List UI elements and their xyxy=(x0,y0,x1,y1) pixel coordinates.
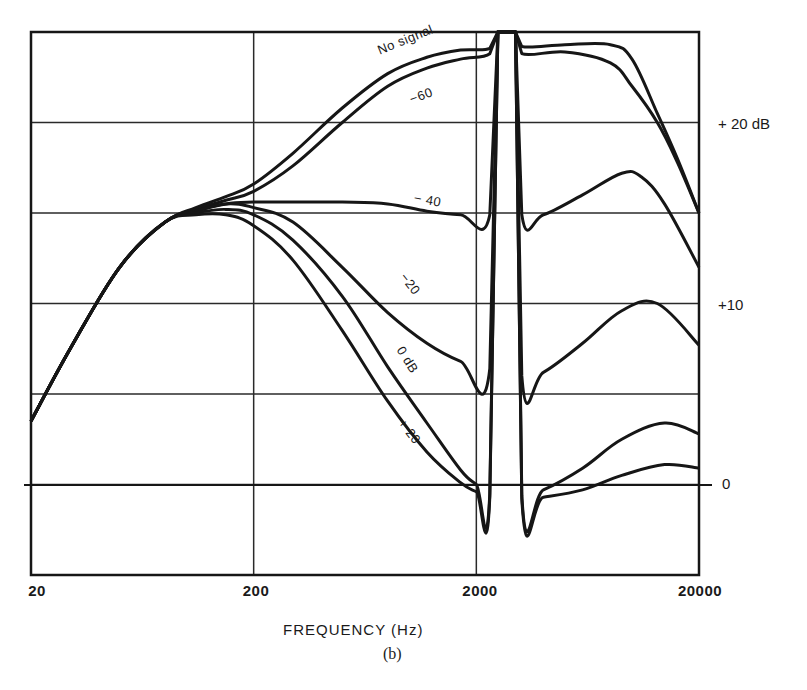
y-tick-20db: + 20 dB xyxy=(718,115,770,132)
x-tick-2000: 2000 xyxy=(462,582,497,599)
x-tick-200: 200 xyxy=(243,582,270,599)
y-tick-10: +10 xyxy=(718,296,743,313)
figure-caption: (b) xyxy=(383,645,402,663)
x-axis-label: FREQUENCY (Hz) xyxy=(283,621,423,638)
curve-0-db xyxy=(31,32,699,532)
curve--20 xyxy=(31,32,699,536)
grid-lines xyxy=(31,32,699,575)
curve-no-signal xyxy=(31,32,699,421)
x-tick-20000: 20000 xyxy=(678,582,722,599)
y-tick-0: 0 xyxy=(722,475,730,492)
response-curves xyxy=(31,32,699,536)
x-tick-20: 20 xyxy=(28,582,46,599)
